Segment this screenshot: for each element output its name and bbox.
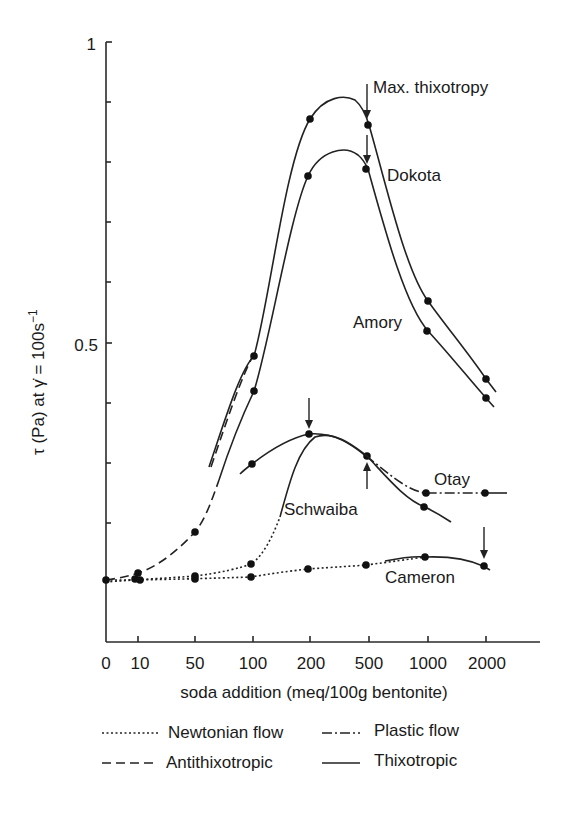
y-tick-0-5: 0.5 [74, 336, 98, 355]
x-tick-0: 0 [101, 654, 110, 673]
label-otay: Otay [434, 470, 470, 489]
label-dokota: Dokota [387, 166, 441, 185]
x-tick-200: 200 [297, 654, 325, 673]
y-axis: 1 0.5 τ (Pa) at γ̇ = 100s−1 [26, 35, 112, 642]
x-tick-2000: 2000 [468, 654, 506, 673]
label-max-thixotropy: Max. thixotropy [373, 78, 489, 97]
x-tick-10: 10 [131, 654, 150, 673]
legend-newtonian-label: Newtonian flow [168, 723, 284, 742]
x-axis-title: soda addition (meq/100g bentonite) [180, 683, 447, 702]
chart: 1 0.5 τ (Pa) at γ̇ = 100s−1 0 10 50 100 … [0, 0, 573, 818]
series-dokota [209, 97, 496, 467]
y-axis-title: τ (Pa) at γ̇ = 100s−1 [26, 309, 48, 455]
x-tick-1000: 1000 [409, 654, 447, 673]
x-tick-500: 500 [355, 654, 383, 673]
legend: Newtonian flow Antithixotropic Plastic f… [102, 721, 460, 772]
series-antithixotropic [106, 480, 219, 580]
legend-thixotropic-label: Thixotropic [374, 751, 458, 770]
label-cameron: Cameron [385, 568, 455, 587]
legend-plastic-label: Plastic flow [374, 721, 460, 740]
legend-antithixotropic-label: Antithixotropic [166, 753, 273, 772]
x-tick-50: 50 [186, 654, 205, 673]
y-tick-1: 1 [87, 35, 96, 54]
x-axis: 0 10 50 100 200 500 1000 2000 soda addit… [101, 636, 540, 702]
label-amory: Amory [353, 313, 403, 332]
x-tick-100: 100 [239, 654, 267, 673]
label-schwaiba: Schwaiba [284, 500, 358, 519]
